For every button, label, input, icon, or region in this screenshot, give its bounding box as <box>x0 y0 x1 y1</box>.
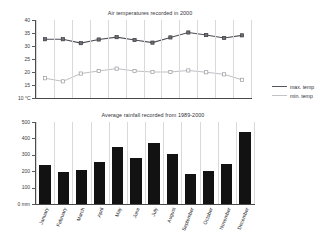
rainfall-bar <box>185 174 196 204</box>
y-axis-tick-label: 20 <box>18 70 30 75</box>
gridline <box>109 122 110 204</box>
x-axis-line <box>35 98 252 99</box>
legend-item-max-temp: max. temp <box>272 82 332 91</box>
rainfall-bar <box>221 164 232 205</box>
y-axis-tick-label: 15 <box>18 83 30 88</box>
gridline <box>163 122 164 204</box>
data-point-marker <box>205 71 208 74</box>
gridline <box>72 20 73 98</box>
rainfall-bar <box>112 147 123 204</box>
x-axis-line <box>35 204 255 205</box>
y-axis-tick <box>32 98 36 99</box>
gridline <box>108 20 109 98</box>
temperature-chart-title: Air temperatures recorded in 2000 <box>30 10 270 16</box>
chart-page: Air temperatures recorded in 2000 403530… <box>0 0 333 244</box>
gridline <box>251 20 252 98</box>
month-label-slot: April <box>91 206 109 244</box>
gridline <box>90 20 91 98</box>
bar-slot <box>54 122 72 204</box>
data-point-marker <box>133 69 136 72</box>
bar-slot <box>145 122 163 204</box>
data-point-marker <box>169 36 172 39</box>
data-point-marker <box>151 70 154 73</box>
y-axis-tick <box>32 204 36 205</box>
legend-label-max: max. temp <box>290 84 314 90</box>
data-point-marker <box>79 72 82 75</box>
y-axis-tick-label: 100 <box>16 185 30 190</box>
data-point-marker <box>151 41 154 44</box>
data-point-marker <box>97 69 100 72</box>
rainfall-month-labels: JanuaryFebruaryMarchAprilMayJuneJulyAugu… <box>36 206 254 244</box>
y-axis-tick-label: 300 <box>16 152 30 157</box>
bar-slot <box>181 122 199 204</box>
month-label-slot: March <box>72 206 90 244</box>
data-point-marker <box>205 33 208 36</box>
month-label: October <box>202 207 213 225</box>
data-point-marker <box>61 80 64 83</box>
rainfall-bar <box>167 154 178 205</box>
data-point-marker <box>43 38 46 41</box>
data-point-marker <box>223 36 226 39</box>
gridline <box>233 20 234 98</box>
month-label-slot: December <box>236 206 254 244</box>
gridline <box>127 122 128 204</box>
month-label: February <box>56 207 68 227</box>
data-point-marker <box>115 36 118 39</box>
gridline <box>218 122 219 204</box>
gridline <box>161 20 162 98</box>
bar-slot <box>72 122 90 204</box>
rainfall-chart-title: Average rainfall recorded from 1989-2000 <box>28 112 278 118</box>
data-point-marker <box>240 34 243 37</box>
gridline <box>126 20 127 98</box>
gridline <box>72 122 73 204</box>
rainfall-bar <box>148 143 159 204</box>
month-label-slot: September <box>181 206 199 244</box>
rainfall-bar <box>203 171 214 204</box>
rainfall-bar <box>76 170 87 204</box>
gridline <box>197 20 198 98</box>
y-axis-tick-label: 25 <box>18 57 30 62</box>
bar-slot <box>163 122 181 204</box>
gridline <box>36 122 37 204</box>
rainfall-bar <box>239 132 250 204</box>
data-point-marker <box>115 67 118 70</box>
month-label: September <box>182 207 195 232</box>
month-label: November <box>219 207 232 230</box>
gridline <box>91 122 92 204</box>
data-point-marker <box>61 38 64 41</box>
data-point-marker <box>97 38 100 41</box>
bar-slot <box>91 122 109 204</box>
y-axis-tick-label: 200 <box>16 169 30 174</box>
y-axis-tick-label: 35 <box>18 31 30 36</box>
month-label-slot: January <box>36 206 54 244</box>
average-rainfall-chart: Average rainfall recorded from 1989-2000… <box>0 110 333 244</box>
bar-slot <box>200 122 218 204</box>
y-axis-tick-label: 40 <box>18 18 30 23</box>
gridline <box>179 20 180 98</box>
gridline <box>144 20 145 98</box>
month-label-slot: February <box>54 206 72 244</box>
y-axis-tick-label: 10 °C <box>18 96 30 101</box>
month-label: June <box>132 207 141 219</box>
gridline <box>254 122 255 204</box>
y-axis-tick-label: 400 <box>16 136 30 141</box>
gridline <box>54 20 55 98</box>
data-point-marker <box>223 73 226 76</box>
gridline <box>181 122 182 204</box>
y-axis-tick-label: 30 <box>18 44 30 49</box>
month-label-slot: July <box>145 206 163 244</box>
y-axis-tick-label: 500 <box>16 120 30 125</box>
month-label-slot: June <box>127 206 145 244</box>
month-label-slot: May <box>109 206 127 244</box>
bar-slot <box>36 122 54 204</box>
month-label-slot: August <box>163 206 181 244</box>
bar-slot <box>236 122 254 204</box>
gridline <box>236 122 237 204</box>
month-label: July <box>151 207 159 217</box>
rainfall-bar <box>39 165 50 204</box>
rainfall-bar <box>94 162 105 204</box>
month-label: March <box>76 207 86 222</box>
data-point-marker <box>187 69 190 72</box>
data-point-marker <box>43 77 46 80</box>
legend-label-min: min. temp <box>290 93 313 99</box>
